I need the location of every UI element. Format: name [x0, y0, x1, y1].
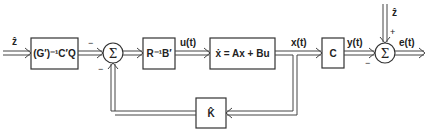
signal-e-label: e(t) [399, 37, 415, 48]
link-sum1-block2 [123, 48, 143, 58]
link-block1-sum1: − [78, 38, 103, 58]
block-controller-label: R⁻¹B′ [146, 48, 172, 59]
link-k-to-sum1 [108, 63, 196, 115]
signal-x-label: x(t) [291, 37, 307, 48]
link-plant-output: x(t) [275, 37, 322, 115]
sigma-icon: Σ [381, 47, 389, 61]
block-estimator-gain-label: K̂ [207, 107, 215, 119]
input-signal-z-hat: ẑ [3, 36, 31, 58]
block-controller: R⁻¹B′ [143, 38, 175, 69]
sum2-sign-z: + [390, 27, 395, 37]
block-plant: ẋ = Ax + Bu [210, 38, 275, 69]
z-hat-top-label: ẑ [392, 7, 397, 18]
block-estimator-gain: K̂ [196, 98, 226, 128]
block-gain-in: (G′)⁻¹C′Q [31, 38, 78, 69]
link-output-sum2: y(t) − [344, 37, 375, 68]
link-controller-plant: u(t) [175, 37, 210, 58]
sigma-icon: Σ [109, 47, 117, 61]
link-x-to-k [226, 108, 297, 118]
sum1-sign-feedback: − [98, 64, 103, 74]
block-gain-in-label: (G′)⁻¹C′Q [33, 48, 76, 59]
signal-u-label: u(t) [180, 37, 196, 48]
sum1-sign-in: − [88, 38, 93, 48]
output-signal-e: e(t) [395, 37, 425, 58]
sum2-sign-y: − [365, 58, 370, 68]
block-plant-label: ẋ = Ax + Bu [215, 48, 269, 59]
signal-y-label: y(t) [347, 37, 363, 48]
block-diagram: ẑ (G′)⁻¹C′Q − Σ − R⁻¹B′ u(t) ẋ = Ax + [0, 0, 433, 135]
input-label: ẑ [12, 36, 17, 47]
summing-junction-2: Σ + [375, 27, 395, 63]
input-signal-z-hat-top: ẑ [380, 4, 397, 43]
block-output-map: C [322, 38, 344, 68]
block-output-map-label: C [329, 48, 336, 59]
